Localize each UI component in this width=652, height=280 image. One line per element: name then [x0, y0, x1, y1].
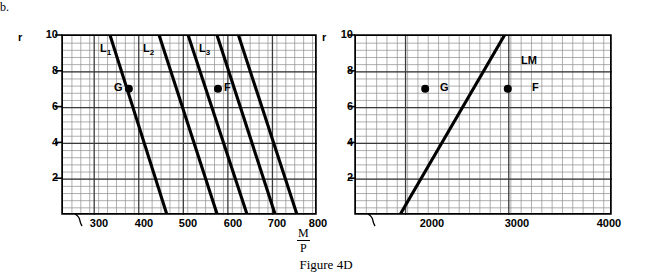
left-y-axis-label: r — [18, 31, 22, 43]
left-ytick-6: 6 — [36, 100, 58, 112]
left-ytick-2: 2 — [36, 171, 58, 183]
left-xtick-700: 700 — [257, 217, 297, 229]
curve-label-L3: L3 — [199, 42, 210, 57]
point-label-G-right: G — [440, 81, 449, 93]
right-ytick-2: 2 — [331, 171, 353, 183]
left-xtick-600: 600 — [213, 217, 253, 229]
mp-numerator: M — [296, 227, 311, 239]
point-label-F-right: F — [532, 81, 539, 93]
curve-label-L1: L1 — [100, 42, 111, 57]
right-grid — [356, 36, 612, 215]
curve-label-L2-sub: 2 — [150, 48, 154, 57]
right-ytick-6: 6 — [331, 100, 353, 112]
curve-label-L3-sub: 3 — [206, 48, 210, 57]
left-xtick-300: 300 — [79, 217, 119, 229]
left-ytick-8: 8 — [36, 64, 58, 76]
right-xtick-2000: 2000 — [412, 217, 452, 229]
curve-label-LM: LM — [521, 54, 537, 66]
left-plot-area — [62, 35, 316, 214]
curve-label-L2-text: L — [143, 42, 150, 54]
left-ytick-4: 4 — [36, 136, 58, 148]
right-y-axis-label: r — [322, 31, 326, 43]
left-xtick-400: 400 — [124, 217, 164, 229]
left-grid — [63, 36, 317, 215]
mp-denominator: P — [296, 242, 311, 254]
right-ytick-8: 8 — [331, 64, 353, 76]
right-ytick-4: 4 — [331, 136, 353, 148]
curve-label-L3-text: L — [199, 42, 206, 54]
left-xtick-500: 500 — [168, 217, 208, 229]
right-xtick-4000: 4000 — [589, 217, 629, 229]
curve-label-L1-text: L — [100, 42, 107, 54]
curve-label-L2: L2 — [143, 42, 154, 57]
point-label-G-left: G — [114, 81, 123, 93]
figure-caption: Figure 4D — [0, 257, 652, 273]
curve-label-L1-sub: 1 — [107, 48, 111, 57]
right-ytick-10: 10 — [331, 28, 353, 40]
left-ytick-10: 10 — [36, 28, 58, 40]
panel-letter: b. — [0, 0, 652, 15]
point-label-F-left: F — [224, 81, 231, 93]
x-axis-label-m-over-p: M P — [296, 227, 311, 254]
right-plot-area — [355, 35, 611, 214]
right-xtick-3000: 3000 — [497, 217, 537, 229]
